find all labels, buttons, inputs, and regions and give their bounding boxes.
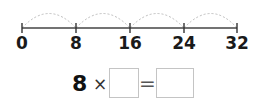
tick-label-32: 32	[225, 33, 249, 53]
tick-label-0: 0	[16, 33, 28, 53]
equals-sign: =	[139, 71, 156, 95]
times-sign: ×	[93, 73, 107, 95]
tick-label-24: 24	[172, 33, 196, 53]
answer-box-2[interactable]	[156, 68, 194, 98]
factor: 8	[72, 71, 87, 97]
tick-label-8: 8	[70, 33, 82, 53]
equation: 8 × =	[0, 68, 261, 100]
answer-box-1[interactable]	[109, 68, 139, 98]
tick-label-16: 16	[118, 33, 142, 53]
